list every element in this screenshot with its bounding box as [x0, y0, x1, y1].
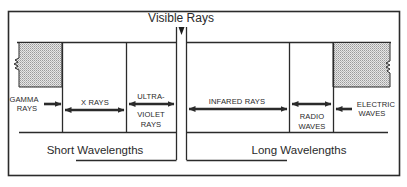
electromagnetic-spectrum-diagram: Visible Rays GAMMA RAYS X RAYS ULTRA- VI… — [0, 0, 407, 187]
radio-label-line-2: WAVES — [298, 122, 325, 131]
ultraviolet-label-line-3: RAYS — [141, 120, 162, 129]
gamma-label-line-2: RAYS — [17, 104, 38, 113]
visible-rays-title: Visible Rays — [148, 11, 214, 25]
gamma-stipple-block — [14, 43, 62, 88]
long-wavelengths-label: Long Wavelengths — [252, 144, 347, 156]
xray-label: X RAYS — [81, 98, 109, 107]
ultraviolet-label-line-1: ULTRA- — [137, 92, 165, 101]
electric-label-line-1: ELECTRIC — [357, 100, 396, 109]
infrared-label: INFARED RAYS — [209, 97, 265, 106]
short-wavelengths-label: Short Wavelengths — [47, 144, 144, 156]
visible-pointer-icon — [179, 27, 185, 35]
gamma-label-line-1: GAMMA — [9, 95, 39, 104]
electric-label-line-2: WAVES — [358, 109, 385, 118]
radio-label-line-1: RADIO — [300, 112, 325, 121]
electric-stipple-block — [333, 43, 390, 88]
ultraviolet-label-line-2: VIOLET — [137, 110, 165, 119]
